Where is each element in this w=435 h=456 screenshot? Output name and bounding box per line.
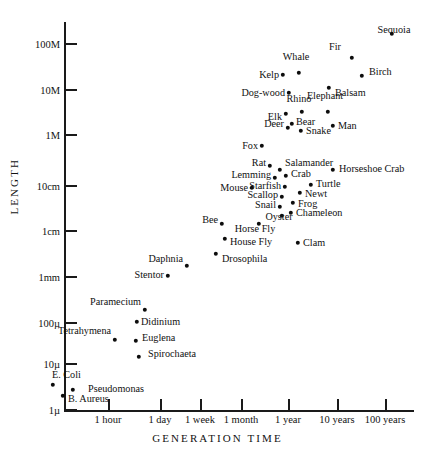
x-axis-line <box>64 410 414 412</box>
data-point-label: Mouse <box>220 183 248 194</box>
data-point-label: Clam <box>303 238 325 249</box>
y-tick-mark <box>66 185 77 187</box>
data-point-label: E. Coli <box>52 370 81 381</box>
data-point-label: Horseshoe Crab <box>339 164 404 175</box>
data-point-label: Dog-wood <box>241 88 285 99</box>
y-tick-label: 100M <box>0 39 60 50</box>
y-axis-line <box>64 22 66 412</box>
data-point <box>143 308 147 312</box>
data-point <box>284 174 288 178</box>
data-point-label: Snail <box>255 200 276 211</box>
x-tick-label: 1 month <box>224 414 259 425</box>
data-point <box>299 129 303 133</box>
data-point <box>214 252 218 256</box>
y-tick-mark <box>66 276 77 278</box>
data-point-label: Snake <box>306 126 331 137</box>
data-point-label: Didinium <box>141 317 180 328</box>
data-point-label: Birch <box>369 67 392 78</box>
data-point-label: Fox <box>242 141 258 152</box>
data-point <box>278 205 282 209</box>
data-point <box>281 73 285 77</box>
data-point <box>113 338 117 342</box>
data-point <box>309 183 313 187</box>
y-tick-mark <box>66 230 77 232</box>
data-point <box>278 168 282 172</box>
data-point-label: Tetrahymena <box>58 326 111 337</box>
y-tick-mark <box>66 322 77 324</box>
data-point-label: Daphnia <box>148 254 183 265</box>
data-point <box>137 355 141 359</box>
y-tick-label: 1M <box>0 130 60 141</box>
y-tick-label: 1mm <box>0 272 60 283</box>
x-tick-label: 1 year <box>275 414 301 425</box>
x-tick-label: 1 week <box>185 414 215 425</box>
y-axis-title: LENGTH <box>8 158 20 215</box>
data-point <box>284 112 288 116</box>
data-point-label: House Fly <box>230 237 272 248</box>
y-tick-mark <box>66 363 77 365</box>
data-point <box>298 191 302 195</box>
y-tick-mark <box>66 134 77 136</box>
data-point <box>300 110 304 114</box>
data-point <box>223 237 227 241</box>
y-tick-label: 1µ <box>0 405 60 416</box>
data-point <box>283 185 287 189</box>
data-point <box>286 126 290 130</box>
data-point <box>296 241 300 245</box>
data-point-label: Rhino <box>287 94 312 105</box>
y-tick-label: 10M <box>0 85 60 96</box>
x-tick-mark <box>337 399 339 411</box>
data-point <box>260 144 264 148</box>
x-tick-label: 1 day <box>148 414 171 425</box>
data-point <box>326 110 330 114</box>
data-point-label: Fir <box>329 42 341 53</box>
y-tick-label: 10µ <box>0 359 60 370</box>
data-point-label: Horse Fly <box>235 224 275 235</box>
x-tick-mark <box>288 399 290 411</box>
x-tick-mark <box>385 399 387 411</box>
data-point-label: Bee <box>202 215 218 226</box>
data-point-label: Salamander <box>285 158 333 169</box>
data-point-label: Drosophila <box>222 254 267 265</box>
data-point <box>350 56 354 60</box>
data-point <box>220 222 224 226</box>
data-point-label: Kelp <box>259 70 279 81</box>
x-axis-title: GENERATION TIME <box>0 432 435 444</box>
data-point-label: Deer <box>264 119 284 130</box>
data-point-label: Rat <box>252 158 266 169</box>
data-point <box>134 339 138 343</box>
data-point-label: Crab <box>291 169 311 180</box>
data-point <box>51 383 55 387</box>
y-tick-mark <box>66 89 77 91</box>
x-tick-label: 1 hour <box>94 414 121 425</box>
data-point-label: B. Aureus <box>68 394 109 405</box>
y-tick-mark <box>66 409 77 411</box>
data-point-label: Sequoia <box>378 25 411 36</box>
x-tick-mark <box>241 399 243 411</box>
data-point <box>185 264 189 268</box>
data-point <box>166 274 170 278</box>
data-point-label: Elephant <box>307 91 343 102</box>
y-tick-label: 100µ <box>0 318 60 329</box>
x-tick-label: 100 years <box>365 414 406 425</box>
data-point <box>71 388 75 392</box>
data-point-label: Man <box>338 121 357 132</box>
x-tick-label: 10 years <box>319 414 354 425</box>
x-tick-mark <box>160 399 162 411</box>
data-point <box>280 195 284 199</box>
x-tick-mark <box>200 399 202 411</box>
data-point <box>297 71 301 75</box>
data-point-label: Lemming <box>231 170 271 181</box>
data-point <box>291 201 295 205</box>
data-point-label: Chameleon <box>296 208 342 219</box>
data-point <box>360 74 364 78</box>
data-point-label: Stentor <box>135 270 164 281</box>
data-point-label: Whale <box>283 52 310 63</box>
data-point-label: Oyster <box>265 212 292 223</box>
data-point <box>331 168 335 172</box>
y-tick-mark <box>66 43 77 45</box>
data-point-label: Euglena <box>142 333 175 344</box>
scatter-plot: 100M10M1M10cm1cm1mm100µ10µ1µ 1 hour1 day… <box>0 0 435 456</box>
data-point <box>331 124 335 128</box>
y-tick-label: 1cm <box>0 226 60 237</box>
